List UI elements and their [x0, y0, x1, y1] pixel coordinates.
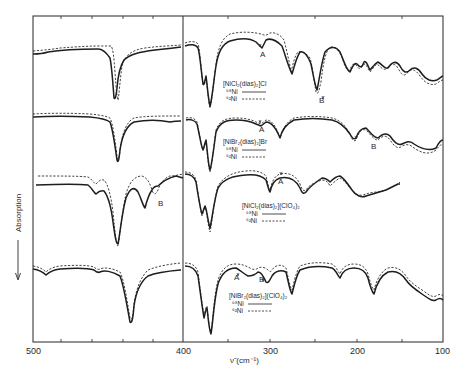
spectrum-4-legend-58ni: ⁵⁸Ni	[232, 300, 244, 307]
annotation-a-label: A	[259, 125, 265, 134]
spectrum-1-58ni-left	[33, 47, 181, 99]
x-axis-label: ν̃ (cm⁻¹)	[230, 356, 259, 365]
tick-label-100: 100	[435, 346, 450, 356]
spectrum-3-58ni-right	[185, 174, 400, 228]
spectrum-4-legend-62ni: ⁶²Ni	[232, 307, 243, 314]
y-axis-label: Absorption	[14, 194, 23, 232]
annotation-a-label: A	[234, 273, 240, 282]
spectrum-2-legend-62ni: ⁶²Ni	[226, 153, 237, 160]
tick-label-300: 300	[263, 346, 278, 356]
spectrum-2: A B [NiBr₂(dias)₂]Br ⁵⁸Ni ⁶²Ni	[33, 113, 443, 172]
spectrum-2-legend-58ni: ⁵⁸Ni	[226, 146, 238, 153]
ir-spectra-chart: 500 400 300 200 100 ν̃ (cm⁻¹) Absorption…	[0, 0, 461, 374]
annotation-b-label: B	[259, 275, 264, 284]
spectrum-3-legend-58ni: ⁵⁸Ni	[246, 210, 258, 217]
annotation-b-label: B	[319, 96, 324, 105]
tick-label-400: 400	[176, 346, 191, 356]
spectrum-3-legend-62ni: ⁶²Ni	[246, 217, 257, 224]
spectrum-1: A B [NiCl₂(dias)₂]Cl ⁵⁸Ni ⁶²Ni	[33, 32, 443, 108]
annotation-a-label: A	[278, 177, 284, 186]
spectrum-3-compound-label: [NiCl₂(dias)₂](ClO₄)₂	[242, 202, 300, 210]
spectrum-1-62ni-right	[185, 32, 443, 108]
annotation-b-label: B	[371, 142, 376, 151]
tick-label-500: 500	[26, 346, 41, 356]
y-axis-label-group: Absorption	[14, 194, 23, 280]
spectrum-1-compound-label: [NiCl₂(dias)₂]Cl	[223, 80, 267, 88]
spectrum-2-compound-label: [NiBr₂(dias)₂]Br	[223, 138, 268, 146]
spectrum-4-58ni-left	[33, 268, 181, 322]
spectrum-4-58ni-right	[185, 266, 443, 334]
annotation-b-label: B	[158, 199, 163, 208]
annotation-a-marker	[259, 120, 261, 123]
spectrum-2-58ni-left	[33, 116, 181, 161]
spectrum-1-58ni-right	[185, 39, 443, 106]
spectrum-4: A B [NiBr₂(dias)₂](ClO₄)₂ ⁵⁸Ni ⁶²Ni	[33, 263, 443, 334]
spectrum-3: A B [NiCl₂(dias)₂](ClO₄)₂ ⁵⁸Ni ⁶²Ni	[36, 171, 400, 246]
spectrum-1-legend-58ni: ⁵⁸Ni	[226, 88, 238, 95]
spectrum-3-58ni-left	[36, 176, 183, 244]
annotation-a-label: A	[260, 50, 266, 59]
tick-label-200: 200	[350, 346, 365, 356]
spectrum-1-legend-62ni: ⁶²Ni	[226, 95, 237, 102]
spectrum-4-compound-label: [NiBr₂(dias)₂](ClO₄)₂	[229, 292, 288, 300]
